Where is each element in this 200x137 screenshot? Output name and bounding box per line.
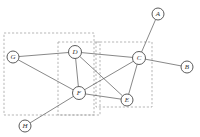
- graph-node-B[interactable]: B: [181, 61, 193, 73]
- edge-D-C: [81, 53, 132, 58]
- diagram-canvas: ABCDEFGH: [0, 0, 200, 137]
- graph-node-C[interactable]: C: [133, 52, 146, 65]
- edge-C-F: [85, 61, 134, 89]
- edge-F-H: [30, 96, 73, 122]
- node-label-C: C: [137, 54, 142, 62]
- node-label-G: G: [10, 53, 15, 61]
- edge-G-F: [18, 60, 73, 90]
- edge-layer: [18, 20, 181, 123]
- edge-C-B: [145, 59, 181, 66]
- node-label-B: B: [185, 63, 190, 71]
- node-label-D: D: [71, 48, 77, 56]
- edge-F-E: [85, 94, 121, 99]
- graph-node-A[interactable]: A: [152, 8, 164, 20]
- node-label-F: F: [76, 89, 82, 97]
- edge-C-E: [129, 64, 138, 94]
- node-label-E: E: [124, 96, 130, 104]
- cluster-left: [4, 33, 94, 115]
- graph-node-G[interactable]: G: [7, 51, 19, 63]
- edge-G-D: [19, 53, 69, 57]
- edge-D-F: [76, 58, 79, 86]
- edge-D-E: [80, 56, 123, 96]
- graph-node-F[interactable]: F: [73, 87, 86, 100]
- edge-C-A: [142, 20, 156, 53]
- graph-node-E[interactable]: E: [121, 94, 133, 106]
- node-label-H: H: [21, 122, 28, 130]
- graph-node-H[interactable]: H: [19, 120, 31, 132]
- graph-svg: ABCDEFGH: [0, 0, 200, 137]
- node-label-A: A: [155, 10, 161, 18]
- graph-node-D[interactable]: D: [69, 46, 82, 59]
